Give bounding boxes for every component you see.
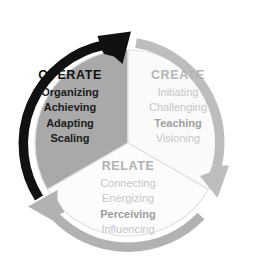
segment-create-item-3: Visioning	[136, 131, 220, 147]
segment-operate-item-1: Achieving	[28, 100, 112, 116]
segment-relate-item-3: Influencing	[84, 222, 172, 238]
segment-operate-item-2: Adapting	[28, 116, 112, 132]
segment-create-item-2: Teaching	[136, 116, 220, 132]
segment-relate-label: RELATE Connecting Energizing Perceiving …	[84, 160, 172, 238]
segment-operate-label: OPERATE Organizing Achieving Adapting Sc…	[28, 69, 112, 147]
segment-create-item-1: Challenging	[136, 100, 220, 116]
segment-operate-item-3: Scaling	[28, 131, 112, 147]
segment-create-label: CREATE Initiating Challenging Teaching V…	[136, 69, 220, 147]
segment-create-title: CREATE	[136, 69, 220, 82]
segment-operate-title: OPERATE	[28, 69, 112, 82]
segment-operate-item-0: Organizing	[28, 85, 112, 101]
segment-relate-item-1: Energizing	[84, 191, 172, 207]
segment-relate-title: RELATE	[84, 160, 172, 173]
segment-relate-item-0: Connecting	[84, 176, 172, 192]
segment-create-item-0: Initiating	[136, 85, 220, 101]
segment-relate-item-2: Perceiving	[84, 207, 172, 223]
cycle-diagram: OPERATE Organizing Achieving Adapting Sc…	[0, 0, 256, 273]
